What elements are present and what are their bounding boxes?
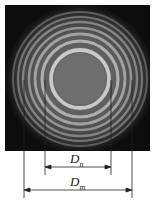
central-disk bbox=[54, 53, 106, 105]
dm-label: Dm bbox=[70, 175, 85, 192]
arrow-left-icon bbox=[24, 188, 30, 192]
interference-image bbox=[5, 5, 153, 153]
dn-label: Dn bbox=[70, 152, 83, 169]
arrow-right-icon bbox=[105, 165, 111, 169]
arrow-right-icon bbox=[126, 188, 132, 192]
arrow-left-icon bbox=[45, 165, 51, 169]
